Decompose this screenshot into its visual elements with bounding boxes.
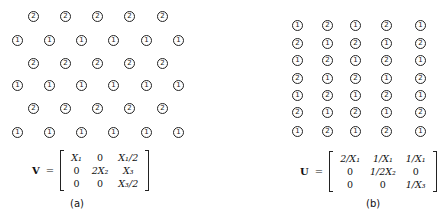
lattice-site-2: 2 — [60, 58, 71, 69]
matrix-cell: 1/X₁ — [365, 152, 401, 165]
lattice-site-1: 1 — [381, 38, 392, 49]
matrix-u: 2/X₁1/X₁1/X₁01/2X₂0001/X₃ — [329, 151, 437, 192]
matrix-cell: 1/X₁ — [401, 152, 431, 165]
lattice-site-1: 1 — [173, 80, 184, 91]
lattice-site-2: 2 — [415, 107, 426, 118]
lattice-site-2: 2 — [28, 58, 39, 69]
caption-a: (a) — [70, 198, 84, 209]
lattice-site-1: 1 — [350, 126, 361, 137]
lattice-site-2: 2 — [92, 11, 103, 22]
matrix-cell: 0 — [335, 165, 365, 178]
lattice-site-2: 2 — [124, 103, 135, 114]
matrix-cell: X₁ — [66, 151, 87, 164]
lattice-site-1: 1 — [76, 127, 87, 138]
matrix-cell: 1/X₃ — [401, 178, 431, 191]
lattice-site-2: 2 — [157, 11, 168, 22]
lattice-site-2: 2 — [28, 103, 39, 114]
lattice-site-2: 2 — [292, 73, 303, 84]
matrix-cell: 2X₂ — [87, 164, 114, 177]
matrix-cell: 0 — [335, 178, 365, 191]
lattice-site-2: 2 — [322, 55, 333, 66]
lattice-site-1: 1 — [292, 20, 303, 31]
lattice-site-2: 2 — [381, 20, 392, 31]
lattice-site-1: 1 — [108, 127, 119, 138]
lattice-site-2: 2 — [124, 11, 135, 22]
panel-a: 222221111112222211111122222111111 V = X₁… — [0, 0, 220, 217]
lattice-site-1: 1 — [292, 126, 303, 137]
matrix-cell: X₁/2 — [113, 151, 143, 164]
matrix-cell: 0 — [66, 164, 87, 177]
lattice-site-1: 1 — [415, 126, 426, 137]
lattice-site-2: 2 — [157, 103, 168, 114]
lattice-site-1: 1 — [173, 35, 184, 46]
lattice-site-1: 1 — [44, 35, 55, 46]
lattice-site-1: 1 — [173, 127, 184, 138]
lattice-site-1: 1 — [292, 90, 303, 101]
lattice-site-1: 1 — [141, 80, 152, 91]
lattice-site-1: 1 — [415, 90, 426, 101]
lattice-site-1: 1 — [76, 35, 87, 46]
lattice-site-2: 2 — [92, 103, 103, 114]
matrix-cell: 0 — [66, 177, 87, 190]
matrix-cell: 0 — [365, 178, 401, 191]
lattice-site-1: 1 — [350, 90, 361, 101]
lattice-site-2: 2 — [28, 11, 39, 22]
lattice-site-1: 1 — [12, 80, 23, 91]
lattice-site-1: 1 — [381, 107, 392, 118]
lattice-site-1: 1 — [350, 20, 361, 31]
lattice-site-1: 1 — [76, 80, 87, 91]
lattice-site-1: 1 — [44, 80, 55, 91]
lattice-site-2: 2 — [322, 126, 333, 137]
equals-sign: = — [46, 165, 54, 176]
lattice-site-2: 2 — [381, 126, 392, 137]
lattice-site-2: 2 — [292, 38, 303, 49]
lattice-site-2: 2 — [322, 90, 333, 101]
matrix-cell: 1/2X₂ — [365, 165, 401, 178]
lattice-site-2: 2 — [350, 73, 361, 84]
matrix-cell: 2/X₁ — [335, 152, 365, 165]
lattice-site-1: 1 — [415, 20, 426, 31]
lattice-site-1: 1 — [141, 127, 152, 138]
lattice-site-1: 1 — [108, 80, 119, 91]
lattice-site-2: 2 — [124, 58, 135, 69]
lattice-site-2: 2 — [322, 20, 333, 31]
equals-sign: = — [315, 166, 323, 177]
lattice-site-2: 2 — [415, 73, 426, 84]
matrix-cell: 0 — [401, 165, 431, 178]
lattice-site-1: 1 — [108, 35, 119, 46]
matrix-cell: 0 — [87, 151, 114, 164]
lattice-site-1: 1 — [322, 73, 333, 84]
lattice-site-2: 2 — [60, 103, 71, 114]
lattice-site-1: 1 — [12, 35, 23, 46]
lattice-site-2: 2 — [292, 107, 303, 118]
matrix-v: X₁0X₁/202X₂X₃00X₃/2 — [60, 150, 149, 191]
lattice-site-1: 1 — [292, 55, 303, 66]
lattice-site-1: 1 — [44, 127, 55, 138]
matrix-name-u: U — [300, 166, 309, 177]
lattice-site-1: 1 — [322, 38, 333, 49]
lattice-site-2: 2 — [92, 58, 103, 69]
matrix-cell: X₃/2 — [113, 177, 143, 190]
lattice-site-1: 1 — [381, 73, 392, 84]
matrix-cell: X₃ — [113, 164, 143, 177]
lattice-site-2: 2 — [415, 38, 426, 49]
lattice-site-2: 2 — [60, 11, 71, 22]
lattice-site-1: 1 — [350, 55, 361, 66]
matrix-name-v: V — [32, 165, 40, 176]
lattice-site-2: 2 — [381, 90, 392, 101]
lattice-site-2: 2 — [350, 38, 361, 49]
equation-v: V = X₁0X₁/202X₂X₃00X₃/2 — [32, 150, 149, 191]
lattice-site-1: 1 — [415, 55, 426, 66]
lattice-site-2: 2 — [157, 58, 168, 69]
caption-b: (b) — [366, 198, 380, 209]
lattice-site-2: 2 — [381, 55, 392, 66]
equation-u: U = 2/X₁1/X₁1/X₁01/2X₂0001/X₃ — [300, 151, 437, 192]
lattice-site-1: 1 — [322, 107, 333, 118]
lattice-site-1: 1 — [141, 35, 152, 46]
lattice-site-2: 2 — [350, 107, 361, 118]
panel-b: 12121212121212121212121212121212121 U = … — [260, 0, 439, 217]
lattice-site-1: 1 — [12, 127, 23, 138]
matrix-cell: 0 — [87, 177, 114, 190]
